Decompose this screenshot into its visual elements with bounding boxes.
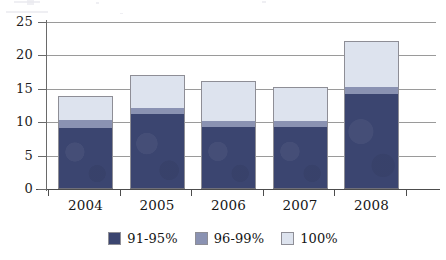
bar-segment-2007-100%[interactable]	[273, 87, 328, 120]
legend-swatch-icon	[195, 232, 208, 245]
x-axis-tick-label: 2007	[265, 197, 335, 213]
y-axis-tick	[38, 22, 47, 23]
bar-segment-2005-91-95%[interactable]	[130, 114, 185, 189]
bar-segment-2008-96-99%[interactable]	[344, 87, 399, 94]
y-axis-tick-label: 0	[3, 181, 33, 196]
x-axis-tick	[120, 189, 121, 196]
y-axis-tick-label: 10	[3, 114, 33, 129]
y-axis-tick	[38, 189, 47, 190]
bar-2007[interactable]	[273, 22, 328, 189]
y-axis-tick-label: 20	[3, 47, 33, 62]
bar-segment-2007-91-95%[interactable]	[273, 127, 328, 189]
bar-segment-2005-100%[interactable]	[130, 75, 185, 107]
bar-segment-2005-96-99%[interactable]	[130, 108, 185, 114]
x-axis-tick	[334, 189, 335, 196]
bar-segment-2007-96-99%[interactable]	[273, 121, 328, 127]
legend-swatch-icon	[281, 232, 294, 245]
bar-segment-2006-100%[interactable]	[201, 81, 256, 120]
x-axis-tick	[191, 189, 192, 196]
legend-label: 100%	[300, 231, 338, 246]
legend-item-2[interactable]: 96-99%	[195, 231, 264, 246]
bar-2006[interactable]	[201, 22, 256, 189]
bar-2004[interactable]	[58, 22, 113, 189]
y-axis-labels: 0510152025	[0, 0, 33, 260]
y-axis-tick-label: 25	[3, 14, 33, 29]
chart-legend: 91-95%96-99%100%	[0, 231, 446, 246]
bar-segment-2004-96-99%[interactable]	[58, 120, 113, 127]
x-axis-tick	[406, 189, 407, 196]
bar-2005[interactable]	[130, 22, 185, 189]
legend-item-3[interactable]: 100%	[281, 231, 338, 246]
x-axis-tick-label: 2004	[51, 197, 121, 213]
bar-segment-2006-96-99%[interactable]	[201, 121, 256, 127]
legend-swatch-icon	[108, 232, 121, 245]
x-axis-line	[36, 189, 440, 190]
x-axis-tick-label: 2008	[337, 197, 407, 213]
bar-segment-2008-100%[interactable]	[344, 41, 399, 88]
plot-area	[47, 22, 436, 189]
y-axis-tick	[38, 89, 47, 90]
x-axis-tick-label: 2006	[194, 197, 264, 213]
bar-2008[interactable]	[344, 22, 399, 189]
legend-label: 91-95%	[127, 231, 177, 246]
y-axis-tick	[38, 122, 47, 123]
y-axis-tick	[38, 156, 47, 157]
stacked-bar-chart: 0510152025 20042005200620072008 91-95%96…	[0, 0, 446, 260]
x-axis-tick	[48, 189, 49, 196]
y-axis-tick-label: 5	[3, 148, 33, 163]
bar-segment-2008-91-95%[interactable]	[344, 94, 399, 189]
bar-segment-2004-100%[interactable]	[58, 96, 113, 121]
y-axis-tick-label: 15	[3, 81, 33, 96]
y-axis-line	[46, 20, 47, 191]
legend-label: 96-99%	[214, 231, 264, 246]
bar-segment-2006-91-95%[interactable]	[201, 127, 256, 189]
y-axis-tick	[38, 55, 47, 56]
x-axis-tick-label: 2005	[122, 197, 192, 213]
x-axis-tick	[263, 189, 264, 196]
bar-segment-2004-91-95%[interactable]	[58, 128, 113, 189]
legend-item-1[interactable]: 91-95%	[108, 231, 177, 246]
